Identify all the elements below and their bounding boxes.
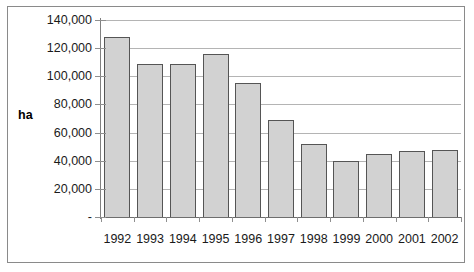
x-axis-line	[101, 217, 461, 218]
x-axis-tick	[297, 217, 298, 222]
x-axis-tick-label: 1992	[103, 233, 131, 246]
bar-1995[interactable]	[203, 54, 229, 217]
y-axis-tick-label: 100,000	[6, 70, 92, 83]
bar-2001[interactable]	[399, 151, 425, 217]
x-axis-tick-label: 1996	[234, 233, 262, 246]
y-axis-tick	[95, 76, 106, 77]
y-axis-tick	[95, 20, 106, 21]
y-axis-tick	[95, 133, 106, 134]
x-axis-tick-label: 1998	[300, 233, 328, 246]
bar-1992[interactable]	[104, 37, 130, 217]
x-axis-tick-label: 2002	[431, 233, 459, 246]
bar-2000[interactable]	[366, 154, 392, 217]
bar-1993[interactable]	[137, 64, 163, 217]
y-axis-tick	[95, 48, 106, 49]
x-axis-tick	[134, 217, 135, 222]
x-axis-tick	[101, 217, 102, 222]
y-axis-tick-label: 40,000	[6, 155, 92, 168]
gridline	[101, 20, 461, 21]
y-axis-tick-label: -	[6, 211, 92, 224]
x-axis-tick	[396, 217, 397, 222]
bar-1998[interactable]	[301, 144, 327, 217]
x-axis-tick-label: 2000	[365, 233, 393, 246]
y-axis-tick-label: 140,000	[6, 14, 92, 27]
y-axis-tick	[95, 161, 106, 162]
bar-1997[interactable]	[268, 120, 294, 217]
x-axis-tick	[232, 217, 233, 222]
x-axis-tick-label: 1995	[202, 233, 230, 246]
y-axis-tick	[95, 189, 106, 190]
x-axis-tick	[363, 217, 364, 222]
y-axis-labels: -20,00040,00060,00080,000100,000120,0001…	[0, 0, 92, 272]
x-axis-tick-label: 1994	[169, 233, 197, 246]
x-axis-tick	[428, 217, 429, 222]
y-axis-title: ha	[18, 109, 33, 122]
bar-1999[interactable]	[333, 161, 359, 217]
x-axis-tick	[330, 217, 331, 222]
x-axis-tick-label: 1999	[333, 233, 361, 246]
bar-2002[interactable]	[432, 150, 458, 217]
x-axis-tick	[166, 217, 167, 222]
x-axis-tick-label: 2001	[398, 233, 426, 246]
y-axis-tick	[95, 104, 106, 105]
bar-1996[interactable]	[235, 83, 261, 217]
y-axis-tick-label: 120,000	[6, 42, 92, 55]
x-axis-tick	[265, 217, 266, 222]
y-axis-tick-label: 20,000	[6, 183, 92, 196]
chart-screenshot: -20,00040,00060,00080,000100,000120,0001…	[0, 0, 474, 272]
x-axis-tick	[199, 217, 200, 222]
plot-area	[101, 20, 461, 217]
x-axis-tick	[461, 217, 462, 222]
gridline	[101, 48, 461, 49]
bar-1994[interactable]	[170, 64, 196, 217]
x-axis-tick-label: 1997	[267, 233, 295, 246]
x-axis-tick-label: 1993	[136, 233, 164, 246]
y-axis-tick-label: 60,000	[6, 127, 92, 140]
